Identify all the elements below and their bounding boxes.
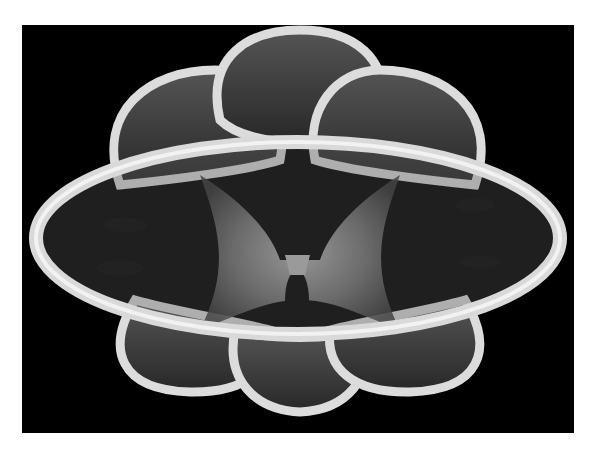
image-frame — [22, 25, 574, 433]
glass-surface-render — [22, 25, 574, 433]
main-ring — [36, 142, 560, 334]
